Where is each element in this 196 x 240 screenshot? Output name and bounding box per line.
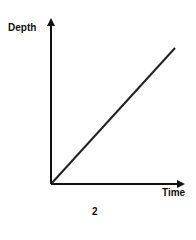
data-line: [51, 48, 175, 184]
figure-caption: 2: [92, 206, 98, 217]
y-axis-label: Depth: [8, 22, 36, 33]
x-axis-label: Time: [162, 187, 185, 198]
